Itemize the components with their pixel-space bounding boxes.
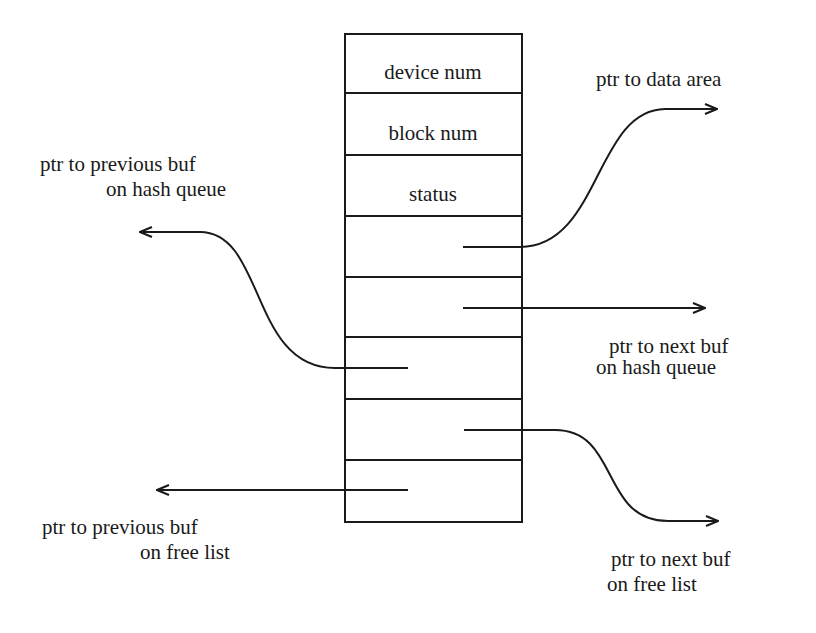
field-block-num: block num [388, 121, 477, 145]
field-device-num: device num [384, 60, 481, 84]
buffer-header-diagram: device num block num status ptr to data … [0, 0, 816, 633]
label-next-free-line2: on free list [607, 572, 697, 596]
label-prev-hash-line1: ptr to previous buf [40, 152, 196, 176]
label-prev-free-line1: ptr to previous buf [42, 515, 198, 539]
buffer-header-box: device num block num status [345, 34, 522, 522]
label-prev-hash-line2: on hash queue [106, 177, 226, 201]
label-prev-free-line2: on free list [140, 540, 230, 564]
field-status: status [409, 182, 457, 206]
label-data-area: ptr to data area [596, 67, 722, 91]
label-next-free-line1: ptr to next buf [611, 547, 731, 571]
label-next-hash-line2: on hash queue [596, 355, 716, 379]
